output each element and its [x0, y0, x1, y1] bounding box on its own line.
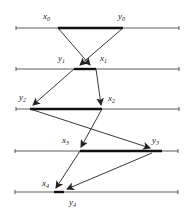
arrow-6 [56, 151, 80, 188]
label-y3: y3 [151, 135, 159, 146]
arrow-4 [30, 109, 150, 148]
level-2 [16, 107, 179, 111]
level-1 [16, 67, 179, 71]
level-4 [15, 190, 178, 194]
arrow-7 [67, 153, 152, 189]
arrow-2 [33, 69, 74, 105]
level-3 [15, 149, 178, 153]
label-x0: x0 [42, 11, 50, 22]
label-x1: x1 [99, 53, 107, 64]
arrow-3 [96, 69, 101, 105]
label-y2: y2 [18, 92, 26, 103]
label-y4: y4 [68, 197, 76, 208]
label-x2: x2 [107, 93, 115, 104]
label-y1: y1 [57, 53, 65, 64]
label-x4: x4 [41, 178, 49, 189]
label-y0: y0 [117, 11, 125, 22]
label-x3: x3 [61, 135, 69, 146]
level-0 [16, 26, 179, 30]
interval-levels [15, 26, 179, 194]
bracketing-diagram: x0y0y1x1y2x2x3y3x4y4 [0, 0, 190, 217]
arrow-5 [81, 109, 102, 147]
